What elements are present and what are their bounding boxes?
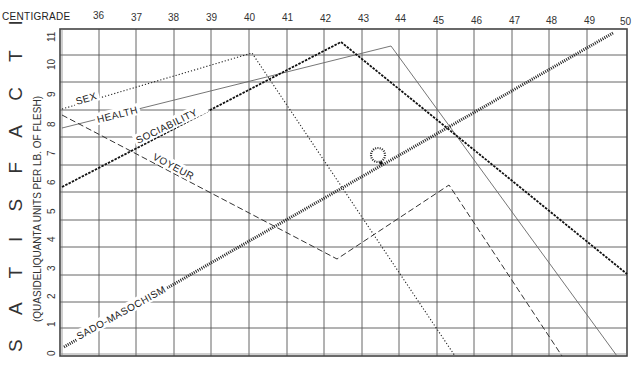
series-label-health-text: HEALTH [96, 104, 139, 125]
x-tick: 44 [395, 13, 407, 24]
series-label-sociability-text: SOCIABILITY [134, 106, 199, 145]
x-tick: 40 [244, 12, 256, 23]
series-label-sado-masochism-text: SADO-MASOCHISM [75, 283, 168, 341]
x-tick: 45 [433, 15, 445, 26]
y-tick: 5 [46, 208, 57, 214]
sado-masochism-loop [371, 148, 385, 162]
plot-border [60, 29, 627, 356]
y-tick: 9 [46, 91, 57, 97]
y-tick: 0 [46, 350, 57, 356]
y-tick: 4 [46, 236, 57, 242]
y-axis-subtitle: (QUASIDELIQUANTA UNITS PER LB. OF FLESH) [32, 96, 43, 322]
x-tick: 39 [206, 12, 218, 23]
y-tick: 8 [46, 121, 57, 127]
series-voyeur-line [62, 115, 562, 356]
x-tick: 42 [320, 13, 332, 24]
x-tick-labels: 36 37 38 39 40 41 42 43 44 45 46 47 48 4… [93, 10, 632, 27]
series-health-line [62, 46, 617, 356]
series-label-voyeur: VOYEUR [149, 149, 196, 182]
y-tick: 2 [46, 293, 57, 299]
x-tick: 47 [509, 15, 521, 26]
x-tick: 50 [620, 16, 632, 27]
y-tick: 1 [46, 321, 57, 327]
satisfaction-chart: S A T I S F A C T I O N (QUASIDELIQUANTA… [0, 0, 639, 366]
x-tick: 38 [168, 12, 180, 23]
x-tick: 36 [93, 10, 105, 21]
series-label-sex: SEX [72, 88, 100, 107]
y-tick: 7 [46, 150, 57, 156]
x-tick: 49 [584, 15, 596, 26]
grid [60, 29, 627, 356]
y-tick: 11 [46, 31, 57, 42]
series-sociability-line [62, 42, 627, 274]
series-label-sado-masochism: SADO-MASOCHISM [72, 282, 169, 343]
x-tick: 43 [358, 13, 370, 24]
x-tick: 48 [546, 15, 558, 26]
y-tick: 6 [46, 179, 57, 185]
x-tick: 37 [131, 12, 143, 23]
y-tick: 10 [46, 58, 57, 70]
series-label-sex-text: SEX [74, 90, 98, 107]
series-label-health: HEALTH [94, 103, 142, 126]
y-axis-title: S A T I S F A C T I O N [5, 0, 26, 352]
x-axis-title: CENTIGRADE [2, 11, 71, 22]
y-tick: 3 [46, 265, 57, 271]
x-tick: 46 [471, 15, 483, 26]
x-tick: 41 [282, 12, 294, 23]
y-tick-labels: 0 1 2 3 4 5 6 7 8 9 10 11 [46, 31, 57, 356]
